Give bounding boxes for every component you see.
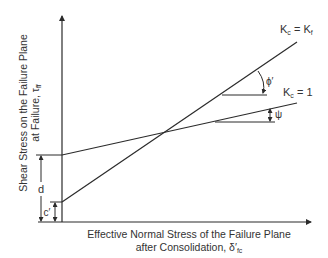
- label-kc-1: Kc = 1: [283, 86, 313, 99]
- x-axis-label-line2: after Consolidation, δ′fc: [136, 241, 243, 254]
- shear-strength-diagram: d c′ ϕ′ ψ Kc = Kf Kc = 1 Shear Stress on…: [0, 0, 328, 258]
- y-axis-label-line1: Shear Stress on the Failure Plane: [17, 34, 29, 192]
- phi-angle-arc: [258, 71, 264, 93]
- phi-prime-label: ϕ′: [266, 76, 274, 87]
- psi-label: ψ: [275, 109, 282, 120]
- c-prime-label: c′: [44, 207, 51, 218]
- y-axis-label-line2: at Failure, τff: [29, 84, 42, 142]
- x-axis-label-line1: Effective Normal Stress of the Failure P…: [87, 228, 291, 240]
- d-label: d: [38, 183, 44, 195]
- envelope-kc-1: [62, 103, 297, 155]
- label-kc-kf: Kc = Kf: [280, 23, 313, 36]
